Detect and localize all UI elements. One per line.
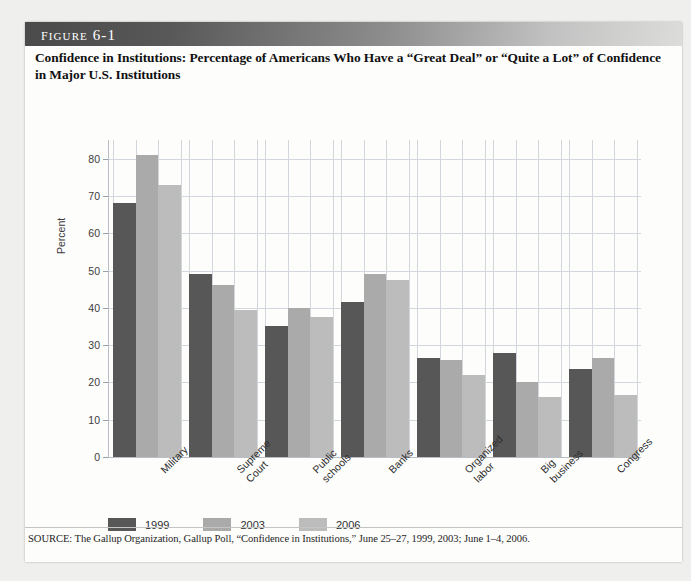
bar-banks-2003	[364, 274, 387, 457]
figure-number-label: Figure 6-1	[41, 25, 116, 45]
y-tick-label: 20	[66, 376, 100, 388]
legend-label-2003: 2003	[240, 519, 264, 531]
bar-public-schools-1999	[265, 326, 288, 457]
chart-legend: 199920032006	[108, 518, 394, 531]
y-tick-mark	[103, 457, 108, 458]
gridline-vertical	[333, 140, 334, 457]
legend-label-2006: 2006	[336, 519, 360, 531]
gridline-vertical	[181, 140, 182, 457]
gridline-vertical	[409, 140, 410, 457]
bar-banks-2006	[386, 280, 409, 457]
y-tick-label: 50	[66, 265, 100, 277]
y-tick-mark	[103, 196, 108, 197]
y-tick-label: 40	[66, 302, 100, 314]
bar-big-business-2003	[516, 382, 539, 457]
bar-public-schools-2006	[310, 317, 333, 457]
y-tick-mark	[103, 345, 108, 346]
gridline-vertical	[257, 140, 258, 457]
source-note: SOURCE: The Gallup Organization, Gallup …	[28, 533, 678, 544]
y-tick-label: 0	[66, 451, 100, 463]
legend-swatch-1999	[108, 518, 136, 531]
y-tick-label: 60	[66, 227, 100, 239]
gridline-vertical	[561, 140, 562, 457]
chart-area: Percent 01020304050607080 MilitarySuprem…	[25, 96, 682, 536]
figure-title: Confidence in Institutions: Percentage o…	[35, 50, 671, 84]
y-tick-mark	[103, 271, 108, 272]
bar-organized-labor-1999	[417, 358, 440, 457]
legend-item-1999: 1999	[108, 518, 169, 531]
gridline-vertical	[485, 140, 486, 457]
bar-supreme-court-1999	[189, 274, 212, 457]
y-tick-mark	[103, 382, 108, 383]
y-tick-mark	[103, 159, 108, 160]
bar-congress-2003	[592, 358, 615, 457]
y-tick-mark	[103, 233, 108, 234]
gridline-vertical	[637, 140, 638, 457]
y-tick-label: 10	[66, 414, 100, 426]
legend-swatch-2006	[299, 518, 327, 531]
bar-organized-labor-2003	[440, 360, 463, 457]
figure-card: Figure 6-1 Confidence in Institutions: P…	[25, 22, 682, 562]
legend-item-2003: 2003	[203, 518, 264, 531]
source-divider	[25, 527, 682, 528]
figure-header-bar: Figure 6-1	[25, 22, 682, 46]
y-tick-mark	[103, 308, 108, 309]
bar-banks-1999	[341, 302, 364, 457]
legend-label-1999: 1999	[145, 519, 169, 531]
legend-item-2006: 2006	[299, 518, 360, 531]
bar-supreme-court-2003	[212, 285, 235, 457]
bar-supreme-court-2006	[234, 310, 257, 457]
bar-military-2006	[158, 185, 181, 457]
plot-area	[108, 140, 641, 458]
bar-public-schools-2003	[288, 308, 311, 457]
y-tick-label: 30	[66, 339, 100, 351]
y-tick-label: 70	[66, 190, 100, 202]
y-tick-label: 80	[66, 153, 100, 165]
legend-swatch-2003	[203, 518, 231, 531]
bar-military-2003	[136, 155, 159, 457]
bar-military-1999	[113, 203, 136, 457]
y-tick-mark	[103, 420, 108, 421]
bar-organized-labor-2006	[462, 375, 485, 457]
